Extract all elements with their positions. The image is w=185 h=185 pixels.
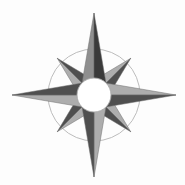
compass-rose-figure: Compass Rose xyxy=(0,0,185,185)
center-hub-circle xyxy=(77,78,111,112)
compass-rose-graphic xyxy=(0,0,185,185)
